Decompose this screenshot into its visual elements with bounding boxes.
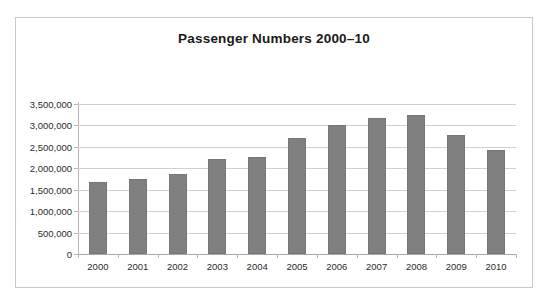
x-tick-label-2009: 2009 — [446, 261, 467, 272]
bar-2008 — [407, 115, 425, 254]
y-tick-mark — [74, 168, 78, 169]
y-tick-mark — [74, 233, 78, 234]
y-tick-mark — [74, 104, 78, 105]
plot-area — [78, 104, 516, 254]
y-tick-label: 1,000,000 — [16, 206, 78, 217]
x-tick-label-2005: 2005 — [286, 261, 307, 272]
x-tick-mark — [476, 254, 477, 258]
x-tick-label-2006: 2006 — [326, 261, 347, 272]
bar-2000 — [89, 182, 107, 254]
bar-2005 — [288, 138, 306, 254]
y-axis-tick-labels: 0500,0001,000,0001,500,0002,000,0002,500… — [16, 18, 78, 287]
bar-2001 — [129, 179, 147, 254]
y-tick-mark — [74, 254, 78, 255]
x-tick-mark — [237, 254, 238, 258]
bar-2003 — [208, 159, 226, 254]
x-tick-mark — [397, 254, 398, 258]
chart-figure: Passenger Numbers 2000–10 0500,0001,000,… — [15, 17, 533, 288]
y-tick-mark — [74, 125, 78, 126]
x-tick-mark — [317, 254, 318, 258]
x-tick-label-2004: 2004 — [247, 261, 268, 272]
x-tick-label-2003: 2003 — [207, 261, 228, 272]
bar-2002 — [169, 174, 187, 254]
x-tick-mark — [197, 254, 198, 258]
gridline — [78, 104, 516, 105]
y-tick-label: 2,500,000 — [16, 141, 78, 152]
chart-title: Passenger Numbers 2000–10 — [16, 31, 532, 46]
x-tick-label-2000: 2000 — [87, 261, 108, 272]
x-tick-mark — [78, 254, 79, 258]
x-tick-label-2010: 2010 — [486, 261, 507, 272]
x-tick-label-2001: 2001 — [127, 261, 148, 272]
y-tick-mark — [74, 190, 78, 191]
x-tick-label-2002: 2002 — [167, 261, 188, 272]
bar-2010 — [487, 150, 505, 254]
y-tick-label: 3,000,000 — [16, 120, 78, 131]
x-tick-mark — [118, 254, 119, 258]
gridline — [78, 125, 516, 126]
x-axis-ticks — [78, 254, 516, 259]
x-tick-label-2008: 2008 — [406, 261, 427, 272]
x-tick-mark — [277, 254, 278, 258]
bar-2004 — [248, 157, 266, 254]
bar-2007 — [368, 118, 386, 254]
x-tick-mark — [158, 254, 159, 258]
y-tick-mark — [74, 211, 78, 212]
y-tick-label: 3,500,000 — [16, 99, 78, 110]
bar-2006 — [328, 125, 346, 254]
x-tick-mark — [436, 254, 437, 258]
y-tick-label: 500,000 — [16, 227, 78, 238]
y-tick-label: 0 — [16, 249, 78, 260]
bar-2009 — [447, 135, 465, 254]
x-axis-tick-labels: 2000200120022003200420052006200720082009… — [78, 261, 516, 277]
y-tick-label: 1,500,000 — [16, 184, 78, 195]
x-tick-mark — [357, 254, 358, 258]
y-tick-mark — [74, 147, 78, 148]
y-tick-label: 2,000,000 — [16, 163, 78, 174]
x-tick-mark — [516, 254, 517, 258]
x-tick-label-2007: 2007 — [366, 261, 387, 272]
